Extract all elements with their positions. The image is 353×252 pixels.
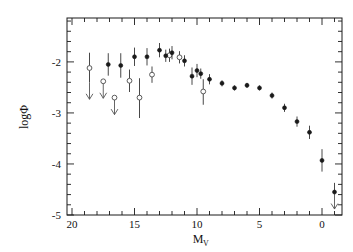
data-marker-filled bbox=[133, 55, 137, 59]
y-tick-label: -2 bbox=[52, 56, 61, 68]
data-point bbox=[190, 68, 194, 85]
data-marker-filled bbox=[119, 63, 123, 67]
data-marker-open bbox=[127, 78, 132, 83]
data-point bbox=[270, 93, 274, 99]
data-marker-filled bbox=[190, 74, 194, 78]
data-marker-open bbox=[177, 55, 182, 60]
data-points-layer bbox=[86, 43, 338, 209]
x-axis-ticks bbox=[72, 18, 335, 215]
scatter-plot-canvas: 20151050 -2-3-4-5 M V logΦ bbox=[0, 0, 353, 252]
data-series-1 bbox=[106, 43, 338, 209]
data-marker-filled bbox=[106, 62, 110, 66]
data-point bbox=[183, 55, 187, 66]
data-marker-filled bbox=[164, 54, 168, 58]
data-marker-filled bbox=[220, 81, 224, 85]
y-axis-tick-labels: -2-3-4-5 bbox=[52, 56, 62, 221]
x-tick-label: 15 bbox=[129, 218, 141, 230]
x-axis-tick-labels: 20151050 bbox=[67, 218, 326, 230]
data-marker-open bbox=[112, 95, 117, 100]
data-marker-filled bbox=[295, 120, 299, 124]
data-point bbox=[331, 183, 338, 209]
data-marker-filled bbox=[208, 77, 212, 81]
x-tick-label: 10 bbox=[192, 218, 204, 230]
data-point bbox=[258, 85, 262, 90]
luminosity-function-figure: 20151050 -2-3-4-5 M V logΦ bbox=[0, 0, 353, 252]
data-point bbox=[86, 53, 93, 100]
data-marker-filled bbox=[258, 86, 262, 90]
data-point bbox=[106, 53, 110, 75]
plot-frame bbox=[67, 18, 342, 215]
data-marker-filled bbox=[170, 51, 174, 55]
data-series-0 bbox=[86, 49, 206, 118]
data-point bbox=[208, 74, 212, 84]
data-marker-filled bbox=[270, 94, 274, 98]
y-axis-ticks bbox=[67, 21, 342, 215]
data-marker-filled bbox=[158, 48, 162, 52]
data-marker-filled bbox=[283, 106, 287, 110]
data-point bbox=[158, 43, 162, 57]
y-axis-label-text: logΦ bbox=[17, 105, 31, 129]
x-axis-label-text: M bbox=[193, 232, 204, 246]
data-point bbox=[195, 64, 199, 77]
data-point bbox=[164, 50, 168, 62]
data-marker-filled bbox=[145, 55, 149, 59]
data-marker-filled bbox=[308, 130, 312, 134]
data-marker-filled bbox=[233, 86, 237, 90]
data-point bbox=[201, 79, 206, 105]
data-point bbox=[127, 70, 132, 92]
x-axis-label-subscript: V bbox=[203, 239, 209, 248]
data-point bbox=[150, 66, 155, 82]
data-point bbox=[283, 104, 287, 112]
data-point bbox=[133, 48, 137, 66]
x-tick-label: 0 bbox=[319, 218, 325, 230]
plot-frame-rect bbox=[67, 18, 342, 215]
data-point bbox=[119, 53, 123, 77]
data-marker-filled bbox=[199, 72, 203, 76]
y-tick-label: -4 bbox=[52, 158, 62, 170]
data-point bbox=[320, 149, 324, 171]
data-marker-open bbox=[87, 66, 92, 71]
data-point bbox=[308, 126, 312, 139]
y-axis-label: logΦ bbox=[17, 105, 31, 129]
data-marker-filled bbox=[320, 158, 324, 162]
data-point bbox=[199, 69, 203, 79]
data-marker-filled bbox=[245, 83, 249, 87]
data-marker-filled bbox=[333, 190, 337, 194]
data-marker-open bbox=[101, 79, 106, 84]
data-point bbox=[245, 83, 249, 88]
data-marker-filled bbox=[195, 69, 199, 73]
data-point bbox=[295, 117, 299, 127]
data-point bbox=[111, 95, 118, 114]
y-tick-label: -3 bbox=[52, 107, 62, 119]
data-marker-filled bbox=[183, 59, 187, 63]
data-point bbox=[220, 80, 224, 86]
data-marker-open bbox=[137, 95, 142, 100]
data-marker-open bbox=[201, 89, 206, 94]
data-point bbox=[233, 85, 237, 90]
data-point bbox=[177, 51, 182, 63]
data-point bbox=[100, 79, 107, 98]
x-axis-label: M V bbox=[193, 232, 209, 248]
data-point bbox=[145, 48, 149, 65]
y-tick-label: -5 bbox=[52, 209, 62, 221]
data-marker-open bbox=[150, 72, 155, 77]
data-point bbox=[137, 78, 142, 118]
x-tick-label: 20 bbox=[67, 218, 79, 230]
x-tick-label: 5 bbox=[257, 218, 263, 230]
